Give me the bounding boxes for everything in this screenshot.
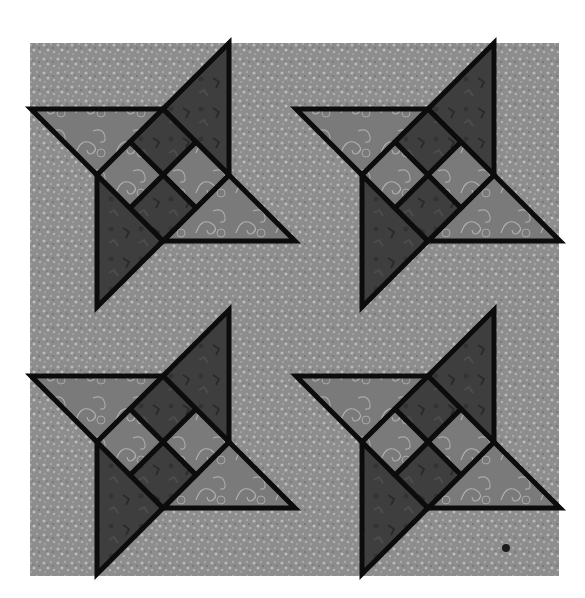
- stray-dot: [502, 544, 510, 552]
- quilt-canvas: [0, 0, 585, 598]
